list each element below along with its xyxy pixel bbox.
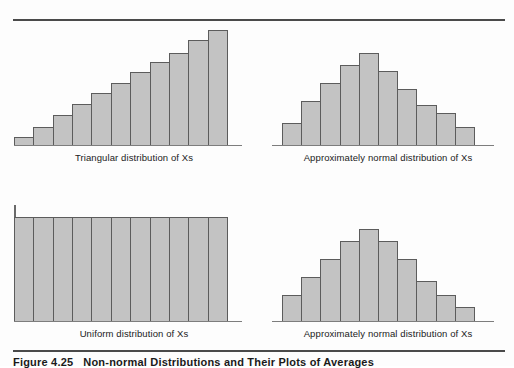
caption-uniform: Uniform distribution of Xs xyxy=(14,328,254,339)
bar xyxy=(169,53,189,145)
bar xyxy=(359,229,379,321)
bar xyxy=(169,217,189,321)
bar xyxy=(301,101,321,145)
bar xyxy=(14,137,34,145)
bar xyxy=(436,113,456,145)
bar xyxy=(130,217,150,321)
bar xyxy=(397,259,417,321)
panel-triangular: Triangular distribution of Xs xyxy=(14,24,254,172)
bar-group-normal-top xyxy=(282,53,475,145)
bar xyxy=(150,217,170,321)
bar xyxy=(416,281,436,321)
bar xyxy=(208,217,228,321)
bar xyxy=(340,65,360,145)
bar xyxy=(397,89,417,145)
y-axis-tick xyxy=(14,205,16,217)
bar xyxy=(91,217,111,321)
chart-triangular xyxy=(14,24,254,146)
bar xyxy=(282,295,302,321)
bar xyxy=(188,217,208,321)
bar xyxy=(33,217,53,321)
bar xyxy=(340,241,360,321)
panel-normal-top: Approximately normal distribution of Xs xyxy=(272,24,504,172)
bar xyxy=(416,105,436,145)
bar xyxy=(301,277,321,321)
chart-normal-bottom xyxy=(272,200,504,322)
bar xyxy=(455,307,475,321)
bar xyxy=(14,217,34,321)
x-axis-line xyxy=(272,321,494,323)
bar xyxy=(111,83,131,145)
bar xyxy=(91,93,111,145)
bar xyxy=(72,104,92,145)
bar xyxy=(320,83,340,145)
chart-normal-top xyxy=(272,24,504,146)
bar xyxy=(111,217,131,321)
bar xyxy=(33,127,53,145)
bar xyxy=(53,115,73,145)
caption-normal-top: Approximately normal distribution of Xs xyxy=(272,152,504,163)
bar xyxy=(208,30,228,145)
bottom-rule xyxy=(13,350,505,352)
bar xyxy=(455,127,475,145)
bar xyxy=(436,295,456,321)
figure-title-text: Non-normal Distributions and Their Plots… xyxy=(83,356,374,368)
x-axis-line xyxy=(272,145,494,147)
bar xyxy=(359,53,379,145)
top-rule xyxy=(13,19,505,21)
bar xyxy=(282,123,302,145)
bar xyxy=(188,40,208,145)
figure-number: Figure 4.25 xyxy=(13,356,73,368)
caption-triangular: Triangular distribution of Xs xyxy=(14,152,254,163)
caption-normal-bottom: Approximately normal distribution of Xs xyxy=(272,328,504,339)
bar-group-uniform xyxy=(14,217,228,321)
bar xyxy=(130,72,150,145)
bar xyxy=(53,217,73,321)
bar xyxy=(150,62,170,145)
figure-title: Figure 4.25Non-normal Distributions and … xyxy=(13,356,374,368)
x-axis-line xyxy=(14,145,242,147)
bar xyxy=(320,259,340,321)
panel-uniform: Uniform distribution of Xs xyxy=(14,200,254,348)
bar-group-triangular xyxy=(14,30,228,145)
chart-uniform xyxy=(14,200,254,322)
bar-group-normal-bottom xyxy=(282,229,475,321)
x-axis-line xyxy=(14,321,242,323)
bar xyxy=(378,241,398,321)
bar xyxy=(378,71,398,145)
panel-normal-bottom: Approximately normal distribution of Xs xyxy=(272,200,504,348)
bar xyxy=(72,217,92,321)
